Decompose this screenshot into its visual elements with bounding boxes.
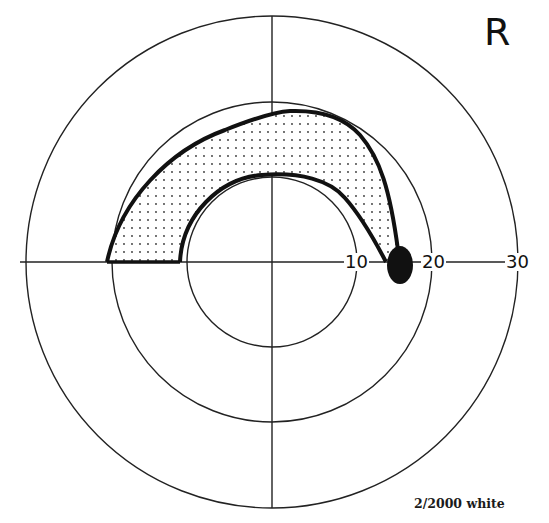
blind-spot bbox=[387, 246, 413, 284]
perimetry-chart bbox=[0, 0, 549, 523]
tick-label-20: 20 bbox=[421, 253, 446, 271]
tick-label-30: 30 bbox=[505, 253, 530, 271]
tick-label-10: 10 bbox=[344, 253, 369, 271]
stimulus-label: 2/2000 white bbox=[414, 496, 505, 511]
eye-label: R bbox=[484, 10, 510, 54]
